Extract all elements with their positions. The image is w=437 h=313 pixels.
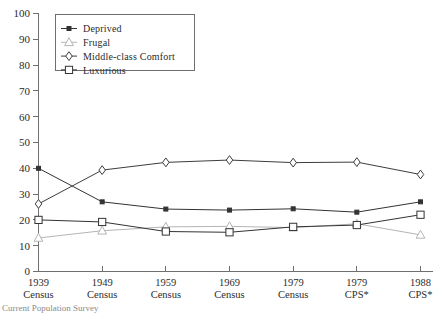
data-point-marker bbox=[417, 170, 424, 179]
y-tick-label: 90 bbox=[19, 33, 31, 45]
data-point-marker bbox=[417, 211, 424, 218]
data-point-marker bbox=[226, 156, 233, 165]
legend-item-luxurious[interactable]: Luxurious bbox=[61, 65, 126, 76]
legend-label: Middle-class Comfort bbox=[83, 51, 175, 62]
y-tick-label: 40 bbox=[19, 162, 31, 174]
legend-label: Frugal bbox=[83, 37, 110, 48]
data-point-marker bbox=[163, 158, 170, 167]
x-tick-label-year: 1959 bbox=[155, 277, 176, 288]
data-point-marker bbox=[99, 218, 106, 225]
legend-label: Luxurious bbox=[83, 65, 126, 76]
x-tick-label-source: Census bbox=[87, 289, 117, 300]
data-point-marker bbox=[353, 221, 360, 228]
x-tick-label-source: Census bbox=[278, 289, 308, 300]
y-tick-label: 100 bbox=[14, 7, 31, 19]
data-point-marker bbox=[419, 200, 423, 204]
line-chart: 0102030405060708090100 1939Census1949Cen… bbox=[0, 0, 437, 313]
x-tick-label-year: 1969 bbox=[219, 277, 240, 288]
x-tick-label-year: 1979 bbox=[283, 277, 304, 288]
series-middle-class-comfort bbox=[35, 156, 424, 209]
footnote-text: Current Population Survey bbox=[2, 303, 99, 313]
y-tick-label: 0 bbox=[25, 265, 31, 277]
x-tick-label-year: 1939 bbox=[28, 277, 49, 288]
x-tick-label-source: Census bbox=[214, 289, 244, 300]
y-tick-label: 70 bbox=[19, 85, 31, 97]
data-point-marker bbox=[226, 229, 233, 236]
data-point-marker bbox=[35, 216, 42, 223]
legend-sample-marker bbox=[65, 66, 72, 73]
data-point-marker bbox=[228, 208, 232, 212]
y-axis-ticks: 0102030405060708090100 bbox=[14, 7, 39, 277]
legend-sample-marker bbox=[67, 27, 71, 31]
data-point-marker bbox=[99, 166, 106, 175]
data-point-marker bbox=[100, 200, 104, 204]
x-tick-label-source: CPS* bbox=[345, 289, 369, 300]
data-point-marker bbox=[290, 158, 297, 167]
y-tick-label: 30 bbox=[19, 188, 31, 200]
y-tick-label: 60 bbox=[19, 111, 31, 123]
x-tick-label-source: Census bbox=[23, 289, 53, 300]
data-point-marker bbox=[354, 158, 361, 167]
y-tick-label: 80 bbox=[19, 59, 31, 71]
x-tick-label-source: Census bbox=[151, 289, 181, 300]
data-point-marker bbox=[162, 228, 169, 235]
data-point-marker bbox=[37, 166, 41, 170]
x-tick-label-source: CPS* bbox=[409, 289, 433, 300]
y-tick-label: 20 bbox=[19, 214, 31, 226]
series-deprived bbox=[37, 166, 423, 214]
data-point-marker bbox=[35, 200, 42, 209]
x-tick-label-year: 1979 bbox=[346, 277, 367, 288]
y-tick-label: 10 bbox=[19, 240, 31, 252]
series-layer bbox=[34, 156, 425, 242]
data-point-marker bbox=[290, 223, 297, 230]
data-point-marker bbox=[355, 210, 359, 214]
legend-label: Deprived bbox=[83, 23, 122, 34]
data-point-marker bbox=[291, 207, 295, 211]
series-path bbox=[39, 168, 421, 212]
y-tick-label: 50 bbox=[19, 136, 31, 148]
x-tick-label-year: 1988 bbox=[410, 277, 431, 288]
chart-canvas: 0102030405060708090100 1939Census1949Cen… bbox=[0, 0, 437, 313]
data-point-marker bbox=[164, 207, 168, 211]
series-path bbox=[39, 160, 421, 204]
x-tick-label-year: 1949 bbox=[92, 277, 113, 288]
